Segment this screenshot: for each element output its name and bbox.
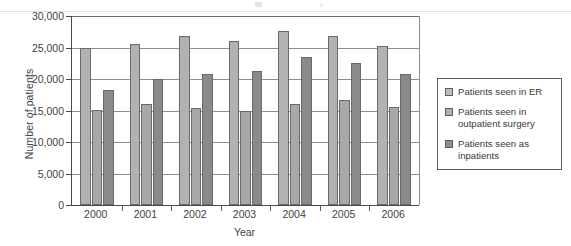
legend-item-label: Patients seen in outpatient surgery bbox=[458, 106, 555, 129]
bar-chart-figure: Number of patients 05,00010,00015,00020,… bbox=[0, 0, 571, 246]
legend-swatch-icon bbox=[445, 108, 453, 116]
bar-series-container bbox=[72, 16, 419, 205]
bar bbox=[389, 107, 400, 205]
x-tick-label: 2005 bbox=[332, 208, 355, 220]
y-tick-label: 10,000 bbox=[8, 136, 64, 148]
bar bbox=[252, 71, 263, 205]
x-tick-label: 2000 bbox=[84, 208, 107, 220]
x-tick-label: 2006 bbox=[382, 208, 405, 220]
y-tick-label: 30,000 bbox=[8, 10, 64, 22]
bar bbox=[328, 36, 339, 205]
legend-swatch-icon bbox=[445, 140, 453, 148]
y-tick-label: 20,000 bbox=[8, 73, 64, 85]
bar bbox=[377, 46, 388, 205]
bar bbox=[290, 104, 301, 205]
bar bbox=[92, 110, 103, 205]
bar bbox=[103, 90, 114, 205]
bar bbox=[191, 108, 202, 205]
legend-item-label: Patients seen as inpatients bbox=[458, 138, 555, 161]
scan-artifact-line bbox=[0, 11, 571, 12]
y-tick-label: 5,000 bbox=[8, 168, 64, 180]
chart-legend: Patients seen in ERPatients seen in outp… bbox=[437, 78, 562, 170]
legend-item: Patients seen in ER bbox=[445, 86, 555, 97]
bar bbox=[202, 74, 213, 205]
plot-area bbox=[71, 16, 419, 206]
y-tick-label: 25,000 bbox=[8, 42, 64, 54]
legend-swatch-icon bbox=[445, 88, 453, 96]
x-tick-label: 2003 bbox=[233, 208, 256, 220]
bar bbox=[351, 63, 362, 205]
y-tick-label: 0 bbox=[8, 199, 64, 211]
x-tick-label: 2001 bbox=[134, 208, 157, 220]
bar bbox=[130, 44, 141, 205]
bar bbox=[240, 111, 251, 206]
x-tick-label: 2002 bbox=[183, 208, 206, 220]
bar bbox=[278, 31, 289, 206]
legend-item-label: Patients seen in ER bbox=[458, 86, 542, 97]
bar bbox=[80, 48, 91, 206]
x-axis-title: Year bbox=[71, 226, 418, 238]
bar bbox=[339, 100, 350, 205]
y-tick-mark bbox=[66, 205, 72, 206]
scan-artifact-mark-2 bbox=[320, 3, 323, 7]
bar bbox=[141, 104, 152, 205]
scan-artifact-mark-1 bbox=[255, 2, 262, 7]
bar bbox=[301, 57, 312, 205]
x-axis-tick-labels: 2000200120022003200420052006 bbox=[71, 208, 418, 224]
bar bbox=[179, 36, 190, 205]
y-axis-tick-labels: 05,00010,00015,00020,00025,00030,000 bbox=[8, 0, 64, 246]
bar bbox=[400, 74, 411, 205]
plot-right-border bbox=[419, 16, 420, 205]
bar bbox=[229, 41, 240, 205]
y-tick-label: 15,000 bbox=[8, 105, 64, 117]
legend-item: Patients seen in outpatient surgery bbox=[445, 106, 555, 129]
x-tick-label: 2004 bbox=[282, 208, 305, 220]
bar bbox=[153, 79, 164, 205]
legend-item: Patients seen as inpatients bbox=[445, 138, 555, 161]
